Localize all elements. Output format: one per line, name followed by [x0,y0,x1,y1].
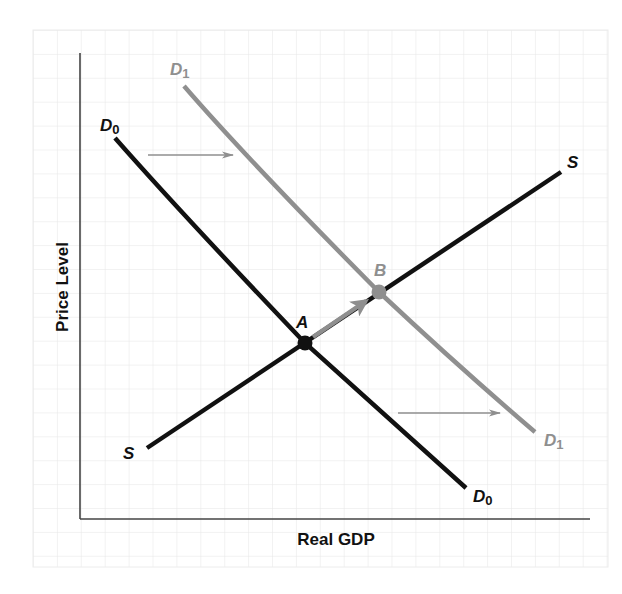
label-point-a: A [295,313,308,332]
x-axis-title: Real GDP [297,530,374,549]
y-axis-title: Price Level [53,242,72,332]
ad-as-chart: A B D0 D0 D1 D1 S S Real GDP Price Level [0,0,622,594]
label-s-top: S [567,153,579,172]
label-point-b: B [374,261,386,280]
grid-background [33,30,608,567]
label-s-bottom: S [123,444,135,463]
point-a-marker [298,336,313,351]
point-b-marker [372,285,387,300]
